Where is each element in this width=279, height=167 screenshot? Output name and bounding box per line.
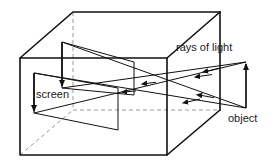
diagram-canvas: screen rays of light object (0, 0, 279, 167)
screen-label: screen (36, 88, 69, 100)
ray-direction-arrowheads (124, 68, 220, 103)
box-bottom-right-diagonal (167, 110, 220, 155)
object-label: object (228, 112, 257, 124)
pinhole-camera-diagram: screen rays of light object (0, 0, 279, 167)
ray-arrowhead-upper-b (197, 75, 212, 77)
ray-arrowhead-upper-a (205, 68, 220, 72)
box-hidden-bottom-left-diagonal (20, 110, 73, 155)
rays-of-light-label: rays of light (176, 41, 232, 53)
box-front-face (20, 58, 167, 155)
ray-arrowhead-mid-upper (144, 82, 156, 84)
box-solid-edges (20, 12, 220, 155)
box-hidden-edges (20, 12, 220, 155)
